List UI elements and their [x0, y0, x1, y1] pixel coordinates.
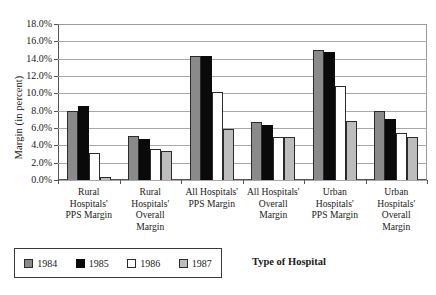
x-category-label-line: All Hospitals' [185, 186, 238, 197]
legend-swatch-icon [76, 259, 85, 268]
bar [100, 177, 111, 180]
legend-swatch-icon [24, 259, 33, 268]
legend-item: 1986 [127, 258, 160, 269]
bar [190, 56, 201, 180]
legend-label: 1987 [192, 258, 212, 269]
y-tick-label: 2.0% [0, 158, 52, 168]
bar-chart: Margin (in percent) 18.0%16.0%14.0%12.0%… [0, 0, 436, 295]
x-axis-title: Type of Hospital [252, 256, 326, 267]
x-category-label-line: Hospitals' [377, 198, 415, 209]
y-tick-label: 8.0% [0, 106, 52, 116]
bar [201, 56, 212, 180]
x-category-label: RuralHospitals'PPS Margin [58, 186, 120, 238]
y-tick-label: 14.0% [0, 54, 52, 64]
bar [407, 137, 418, 180]
bar-group [366, 24, 428, 180]
bar [139, 139, 150, 180]
bar [67, 111, 78, 180]
bar-groups [58, 24, 427, 180]
x-category-label: UrbanHospitals'PPS Margin [304, 186, 366, 238]
x-category-label-line: Overall [259, 198, 288, 209]
legend-item: 1985 [76, 258, 109, 269]
x-tick-mark [304, 180, 305, 184]
x-tick-mark [366, 180, 367, 184]
x-tick-mark [427, 180, 428, 184]
y-tick-label: 4.0% [0, 140, 52, 150]
bar [251, 122, 262, 180]
legend-swatch-icon [127, 259, 136, 268]
legend-swatch-icon [179, 259, 188, 268]
x-category-label-line: PPS Margin [189, 198, 235, 209]
bar-group [243, 24, 305, 180]
legend-label: 1986 [140, 258, 160, 269]
bar [313, 50, 324, 180]
x-tick-mark [120, 180, 121, 184]
legend-label: 1984 [37, 258, 57, 269]
x-category-label-line: Urban [323, 186, 347, 197]
bar [324, 52, 335, 180]
x-category-label-line: All Hospitals' [247, 186, 300, 197]
x-category-label-line: Margin [259, 209, 287, 220]
x-category-label-line: Rural [140, 186, 161, 197]
x-category-label-line: Hospitals' [316, 198, 354, 209]
y-tick-label: 10.0% [0, 88, 52, 98]
bar-group [304, 24, 366, 180]
x-category-label: UrbanHospitals'OverallMargin [366, 186, 428, 238]
bar [161, 151, 172, 180]
legend-item: 1984 [24, 258, 57, 269]
bar [396, 133, 407, 180]
bar [78, 106, 89, 180]
plot-area [58, 24, 427, 180]
bar [346, 121, 357, 180]
bar [273, 137, 284, 180]
y-tick-label: 12.0% [0, 71, 52, 81]
bar [385, 119, 396, 180]
x-category-label-line: PPS Margin [312, 209, 358, 220]
y-tick-label: 18.0% [0, 19, 52, 29]
x-tick-mark [243, 180, 244, 184]
legend-item: 1987 [179, 258, 212, 269]
legend: 1984198519861987 [14, 248, 222, 278]
x-category-label-line: Overall [136, 209, 165, 220]
x-tick-mark [58, 180, 59, 184]
bar [284, 137, 295, 180]
x-category-label-line: Urban [384, 186, 408, 197]
x-category-label: RuralHospitals'OverallMargin [120, 186, 182, 238]
y-tick-label: 0.0% [0, 175, 52, 185]
x-axis-category-labels: RuralHospitals'PPS MarginRuralHospitals'… [58, 186, 427, 238]
x-tick-mark [181, 180, 182, 184]
bar-group [181, 24, 243, 180]
x-category-label-line: Hospitals' [70, 198, 108, 209]
x-category-label: All Hospitals'OverallMargin [243, 186, 305, 238]
bar [223, 129, 234, 180]
bar [374, 111, 385, 180]
bar-group [120, 24, 182, 180]
legend-label: 1985 [89, 258, 109, 269]
bar-group [58, 24, 120, 180]
x-category-label-line: Rural [78, 186, 99, 197]
y-tick-label: 16.0% [0, 36, 52, 46]
x-category-label-line: Hospitals' [131, 198, 169, 209]
bar [128, 136, 139, 180]
y-tick-label: 6.0% [0, 123, 52, 133]
bar [150, 149, 161, 180]
x-category-label-line: Margin [136, 221, 164, 232]
bar [262, 125, 273, 180]
x-category-label-line: Overall [382, 209, 411, 220]
x-category-label-line: Margin [382, 221, 410, 232]
bar [335, 86, 346, 180]
x-category-label: All Hospitals'PPS Margin [181, 186, 243, 238]
bar [89, 153, 100, 180]
x-category-label-line: PPS Margin [66, 209, 112, 220]
bar [212, 92, 223, 180]
